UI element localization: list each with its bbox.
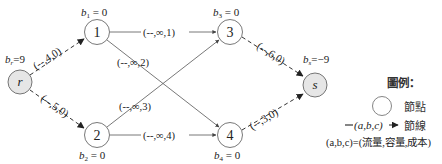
- node-2: 2 b2 = 0: [79, 123, 110, 164]
- supply-label-2: b2 = 0: [79, 149, 106, 163]
- svg-text:1: 1: [94, 25, 101, 40]
- supply-label-3: b3 = 0: [213, 6, 240, 20]
- edge-label-1-3: (--,∞,1): [143, 27, 175, 39]
- svg-text:4: 4: [227, 128, 234, 143]
- edge-label-r-2: (--,5,0): [38, 92, 71, 121]
- legend-edge-label: 節線: [404, 119, 426, 133]
- supply-label-r: br=9: [5, 53, 25, 67]
- edge-label-4-s: (--,3,0): [247, 106, 281, 133]
- edge-label-3-s: (--,6,0): [254, 40, 287, 68]
- svg-text:s: s: [312, 77, 317, 92]
- edges: (--,4,0) (--,5,0) (--,∞,1) (--,∞,2) (--,…: [30, 25, 303, 142]
- supply-label-s: bs=−9: [303, 53, 330, 67]
- edge-label-2-3: (--,∞,3): [119, 101, 151, 113]
- legend-title: 圖例：: [387, 76, 420, 90]
- node-1: 1 b1 = 0: [81, 6, 110, 45]
- legend-edge-sample: (a,b,c): [354, 119, 383, 132]
- legend-node-label: 節點: [404, 100, 426, 114]
- svg-text:2: 2: [94, 128, 101, 143]
- legend-formula: (a,b,c)=(流量,容量,成本): [326, 136, 431, 149]
- legend: 圖例： 節點 (a,b,c) 節線 (a,b,c)=(流量,容量,成本): [326, 76, 431, 149]
- node-r: r br=9: [5, 53, 32, 94]
- svg-text:3: 3: [227, 25, 234, 40]
- legend-node-icon: [373, 97, 392, 116]
- node-3: 3 b3 = 0: [213, 6, 243, 45]
- edge-label-r-1: (--,4,0): [31, 44, 64, 72]
- node-s: s bs=−9: [303, 53, 330, 97]
- supply-label-1: b1 = 0: [81, 6, 108, 20]
- network-flow-diagram: (--,4,0) (--,5,0) (--,∞,1) (--,∞,2) (--,…: [0, 0, 442, 163]
- edge-label-2-4: (--,∞,4): [143, 130, 175, 142]
- supply-label-4: b4 = 0: [214, 149, 241, 163]
- edge-label-1-4: (--,∞,2): [117, 57, 149, 69]
- node-4: 4 b4 = 0: [214, 123, 243, 164]
